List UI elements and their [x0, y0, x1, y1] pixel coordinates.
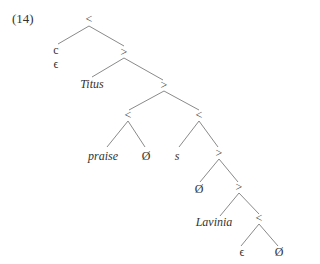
node-7: <	[256, 212, 263, 224]
node-lavinia: Lavinia	[196, 216, 233, 228]
node-s: s	[175, 150, 180, 162]
node-null-3: Ø	[275, 246, 284, 258]
node-2: >	[121, 46, 128, 58]
node-6: >	[236, 181, 243, 193]
node-praise: praise	[88, 150, 118, 162]
node-epsilon-2: ϵ	[240, 246, 245, 258]
node-root: <	[86, 13, 93, 25]
node-c-epsilon: ϵ	[54, 58, 59, 70]
node-4a: <	[125, 109, 132, 121]
node-5: >	[216, 147, 223, 159]
node-null-2: Ø	[195, 183, 204, 195]
node-null-1: Ø	[142, 150, 151, 162]
node-4b: <	[196, 109, 203, 121]
node-c: c	[53, 44, 58, 56]
node-3: >	[161, 79, 168, 91]
node-titus: Titus	[80, 78, 103, 90]
